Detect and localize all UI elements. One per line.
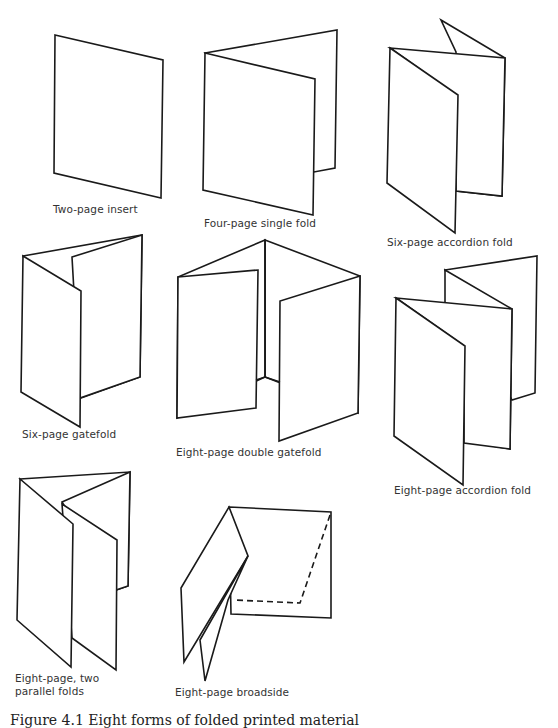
eight-page-broadside-drawing	[181, 507, 331, 681]
label-line-2: parallel folds	[15, 685, 99, 698]
label-two-page-insert: Two-page insert	[53, 203, 138, 216]
six-page-gatefold-drawing	[21, 235, 142, 427]
label-four-page-single-fold: Four-page single fold	[204, 217, 316, 230]
four-page-single-fold-drawing	[203, 30, 337, 215]
two-page-insert-drawing	[54, 35, 163, 198]
eight-page-double-gatefold-drawing	[177, 240, 360, 441]
eight-page-accordion-fold-drawing	[394, 256, 537, 485]
figure-caption: Figure 4.1 Eight forms of folded printed…	[10, 712, 359, 728]
label-six-page-accordion-fold: Six-page accordion fold	[387, 236, 513, 249]
eight-page-two-parallel-folds-drawing	[17, 472, 130, 670]
label-eight-page-two-parallel-folds: Eight-page, two parallel folds	[15, 672, 99, 698]
label-line-1: Eight-page, two	[15, 672, 99, 685]
label-eight-page-accordion-fold: Eight-page accordion fold	[394, 484, 531, 497]
label-eight-page-double-gatefold: Eight-page double gatefold	[176, 446, 321, 459]
label-eight-page-broadside: Eight-page broadside	[175, 686, 289, 699]
label-six-page-gatefold: Six-page gatefold	[22, 428, 116, 441]
six-page-accordion-fold-drawing	[387, 20, 505, 233]
